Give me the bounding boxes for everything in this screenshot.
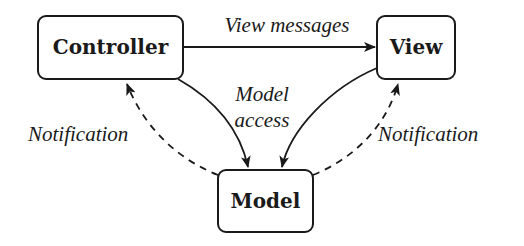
mvc-diagram: View messages Model access Notification … [0,0,524,246]
label-model-access-line2: access [235,108,290,132]
model-access-label: Model access [234,82,289,132]
label-view-messages: View messages [224,13,349,37]
label-notification-left: Notification [27,122,128,146]
node-view: View [377,16,455,79]
edge-view-to-model [282,68,377,167]
node-controller: Controller [38,16,183,79]
model-label: Model [231,189,301,213]
controller-label: Controller [53,35,169,59]
edge-controller-to-view: View messages [183,13,375,47]
label-model-access-line1: Model [234,82,289,106]
arrow-view-model [282,68,377,167]
label-notification-right: Notification [377,122,478,146]
edge-model-to-view: Notification [313,84,478,175]
view-label: View [389,35,443,59]
node-model: Model [218,170,313,232]
edge-model-to-controller: Notification [27,84,218,175]
